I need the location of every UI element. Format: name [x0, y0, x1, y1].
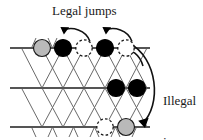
illegal-jump-label: Illegal jump — [163, 67, 196, 140]
site-top-2[interactable] — [55, 40, 72, 57]
site-bot-2[interactable] — [118, 119, 135, 136]
site-bot-1[interactable] — [97, 119, 113, 135]
illegal-jump-label-line1: Illegal — [163, 94, 196, 108]
site-mid-1[interactable] — [108, 80, 125, 97]
site-top-5[interactable] — [118, 40, 134, 56]
site-top-3[interactable] — [76, 40, 92, 56]
legal-jumps-label: Legal jumps — [52, 4, 117, 18]
site-mid-2[interactable] — [129, 80, 146, 97]
illegal-jump-label-line2: jump — [163, 135, 196, 140]
figure-canvas: Legal jumps Illegal jump — [0, 0, 203, 140]
site-top-4[interactable] — [97, 40, 114, 57]
site-top-1[interactable] — [34, 40, 51, 57]
